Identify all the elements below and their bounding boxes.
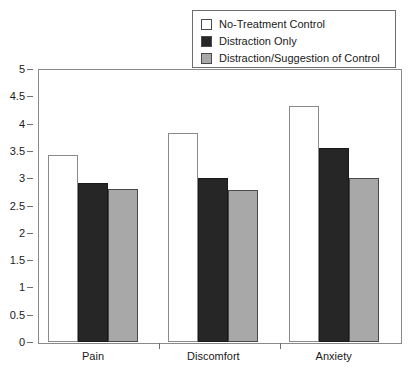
y-axis-tick-label: 4.5	[10, 90, 25, 102]
y-axis: 00.511.522.533.544.55	[0, 0, 38, 373]
y-axis-tick-mark	[27, 315, 33, 316]
x-axis-category-label-pain: Pain	[82, 350, 104, 362]
bar-anxiety-series-1	[319, 148, 349, 342]
y-axis-tick-label: 2	[19, 227, 25, 239]
y-axis-tick-mark	[27, 178, 33, 179]
legend-label-distraction-only: Distraction Only	[219, 35, 297, 47]
bar-chart: No-Treatment Control Distraction Only Di…	[0, 0, 410, 373]
bar-pain-series-0	[48, 155, 78, 342]
bars-layer	[39, 70, 400, 342]
y-axis-tick-mark	[27, 260, 33, 261]
bar-pain-series-1	[78, 183, 108, 342]
y-axis-tick-mark	[27, 96, 33, 97]
bar-discomfort-series-0	[168, 133, 198, 342]
legend-swatch-distraction-only	[201, 36, 212, 47]
y-axis-tick-label: 5	[19, 63, 25, 75]
y-axis-tick-label: 3	[19, 172, 25, 184]
chart-legend: No-Treatment Control Distraction Only Di…	[192, 10, 396, 68]
x-axis-category-label-anxiety: Anxiety	[316, 350, 352, 362]
legend-label-no-treatment-control: No-Treatment Control	[219, 18, 325, 30]
y-axis-tick-label: 1.5	[10, 254, 25, 266]
legend-swatch-no-treatment-control	[201, 19, 212, 30]
y-axis-tick-mark	[27, 233, 33, 234]
y-axis-tick-mark	[27, 287, 33, 288]
y-axis-tick-label: 4	[19, 118, 25, 130]
legend-entry-no-treatment-control: No-Treatment Control	[201, 16, 389, 32]
legend-label-distraction-suggestion: Distraction/Suggestion of Control	[219, 52, 380, 64]
legend-entry-distraction-only: Distraction Only	[201, 33, 389, 49]
bar-anxiety-series-2	[349, 178, 379, 342]
y-axis-tick-mark	[27, 124, 33, 125]
x-axis-tick-mark	[280, 343, 281, 349]
y-axis-tick-mark	[27, 206, 33, 207]
legend-swatch-distraction-suggestion	[201, 53, 212, 64]
y-axis-tick-label: 3.5	[10, 145, 25, 157]
y-axis-tick-label: 0.5	[10, 309, 25, 321]
y-axis-tick-mark	[27, 69, 33, 70]
x-axis-category-label-discomfort: Discomfort	[187, 350, 240, 362]
y-axis-tick-label: 0	[19, 336, 25, 348]
bar-discomfort-series-2	[228, 190, 258, 342]
x-axis-tick-mark	[159, 343, 160, 349]
y-axis-tick-mark	[27, 342, 33, 343]
y-axis-tick-label: 2.5	[10, 200, 25, 212]
legend-entry-distraction-suggestion: Distraction/Suggestion of Control	[201, 50, 389, 66]
bar-pain-series-2	[108, 189, 138, 342]
bar-anxiety-series-0	[289, 106, 319, 342]
y-axis-tick-mark	[27, 151, 33, 152]
bar-discomfort-series-1	[198, 178, 228, 342]
y-axis-tick-label: 1	[19, 281, 25, 293]
